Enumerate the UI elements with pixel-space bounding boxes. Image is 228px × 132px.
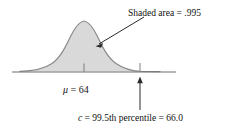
- shaded-region: [20, 21, 140, 71]
- mean-label: μ = 64: [63, 85, 89, 95]
- normal-curve-figure: Shaded area = .995 μ = 64 c = 99.5th per…: [0, 0, 228, 132]
- percentile-label: c = 99.5th percentile = 66.0: [78, 114, 183, 124]
- percentile-symbol: c: [78, 113, 82, 123]
- mean-symbol: μ: [63, 84, 68, 95]
- shaded-area-leader-line: [99, 17, 144, 44]
- percentile-arrowhead: [137, 77, 143, 84]
- shaded-area-label: Shaded area = .995: [128, 9, 201, 19]
